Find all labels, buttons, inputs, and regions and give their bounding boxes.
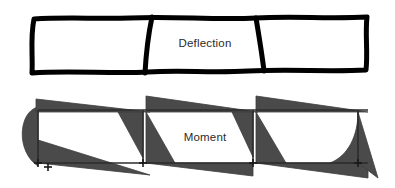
end-curved-wedge-right: [330, 112, 358, 163]
span-2-sagging-wedge-bottom: [146, 112, 175, 163]
span-3-sagging-wedge-bottom: [256, 112, 286, 163]
span-3-base-wedge: [256, 163, 368, 178]
end-cantilever-bulge-left: [22, 107, 38, 166]
moment-diagram: Moment: [0, 0, 395, 188]
moment-label: Moment: [184, 131, 227, 143]
span-2-right-wedge: [232, 112, 253, 157]
span-2-base-wedge: [146, 163, 253, 176]
structural-beam-diagram-figure: Deflection Moment: [0, 0, 395, 188]
span-1-sagging-wedge-bottom: [38, 140, 150, 175]
span-1-interior-wedge: [118, 112, 143, 158]
